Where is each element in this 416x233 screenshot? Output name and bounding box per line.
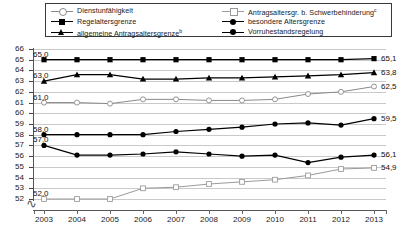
value-label-end: 65,1 <box>381 55 397 63</box>
data-point <box>141 186 146 191</box>
data-point <box>240 179 245 184</box>
value-label-end: 56,1 <box>381 151 397 159</box>
value-label-start: 58,0 <box>33 126 49 134</box>
data-point <box>338 122 343 127</box>
data-point <box>272 57 277 62</box>
data-point <box>305 160 310 165</box>
data-point <box>108 197 113 202</box>
data-point <box>173 129 178 134</box>
data-point <box>107 57 112 62</box>
data-point <box>240 98 245 103</box>
data-point <box>173 149 178 154</box>
data-point <box>173 57 178 62</box>
data-point <box>141 97 146 102</box>
data-point <box>371 152 376 157</box>
data-point <box>273 97 278 102</box>
data-point <box>272 121 277 126</box>
data-point <box>140 57 145 62</box>
data-point <box>207 98 212 103</box>
value-label-start: 65,0 <box>33 51 49 59</box>
data-point <box>339 89 344 94</box>
series-4 <box>41 143 376 165</box>
data-point <box>174 97 179 102</box>
data-point <box>273 177 278 182</box>
series-1 <box>41 69 377 83</box>
series-3 <box>41 116 376 137</box>
data-point <box>206 127 211 132</box>
data-point <box>75 100 80 105</box>
series-plot <box>0 0 416 233</box>
value-label-end: 59,5 <box>381 115 397 123</box>
data-point <box>371 56 376 61</box>
data-point <box>107 132 112 137</box>
data-point <box>74 132 79 137</box>
data-point <box>174 185 179 190</box>
data-point <box>306 173 311 178</box>
data-point <box>305 120 310 125</box>
data-point <box>339 167 344 172</box>
data-point <box>371 116 376 121</box>
chart-root: DienstunfähigkeitRegelaltersgrenzeallgem… <box>0 0 416 233</box>
data-point <box>306 92 311 97</box>
series-2 <box>42 84 377 106</box>
value-label-end: 62,5 <box>381 83 397 91</box>
value-label-end: 54,9 <box>381 164 397 172</box>
data-point <box>107 152 112 157</box>
value-label-start: 52,0 <box>33 190 49 198</box>
data-point <box>207 182 212 187</box>
data-point <box>108 101 113 106</box>
data-point <box>140 132 145 137</box>
data-point <box>206 57 211 62</box>
data-point <box>74 57 79 62</box>
series-line <box>44 119 374 135</box>
value-label-end: 63,8 <box>381 69 397 77</box>
data-point <box>272 152 277 157</box>
data-point <box>239 154 244 159</box>
value-label-start: 61,0 <box>33 94 49 102</box>
series-0 <box>41 56 376 62</box>
series-5 <box>42 166 377 202</box>
value-label-start: 57,0 <box>33 136 49 144</box>
data-point <box>206 151 211 156</box>
data-point <box>338 57 343 62</box>
data-point <box>239 57 244 62</box>
data-point <box>372 166 377 171</box>
data-point <box>305 57 310 62</box>
data-point <box>140 151 145 156</box>
data-point <box>372 84 377 89</box>
data-point <box>338 155 343 160</box>
value-label-start: 63,0 <box>33 72 49 80</box>
data-point <box>75 197 80 202</box>
data-point <box>239 125 244 130</box>
data-point <box>74 152 79 157</box>
